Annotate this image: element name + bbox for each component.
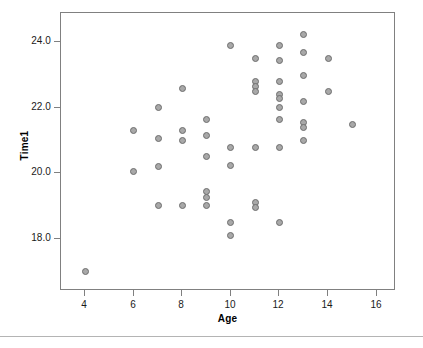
data-point: [179, 137, 186, 144]
data-point: [203, 202, 210, 209]
data-point: [276, 104, 283, 111]
x-axis-tick-label: 16: [356, 299, 396, 310]
data-point: [130, 127, 137, 134]
data-point: [300, 49, 307, 56]
x-axis-tick-label: 10: [210, 299, 250, 310]
data-point: [252, 88, 259, 95]
plot-area: [60, 12, 395, 290]
x-axis-tick: [133, 290, 134, 296]
y-axis-tick-label: 18.0: [0, 232, 51, 243]
data-point: [300, 72, 307, 79]
data-point: [276, 95, 283, 102]
data-point: [179, 127, 186, 134]
x-axis-tick-label: 12: [258, 299, 298, 310]
data-point: [130, 168, 137, 175]
y-axis-tick: [54, 238, 60, 239]
data-point: [155, 135, 162, 142]
data-point: [252, 144, 259, 151]
data-point: [300, 31, 307, 38]
data-point: [227, 232, 234, 239]
y-axis-tick: [54, 172, 60, 173]
data-point: [203, 153, 210, 160]
x-axis-tick: [181, 290, 182, 296]
data-point: [203, 132, 210, 139]
data-points-layer: [61, 13, 394, 289]
data-point: [155, 104, 162, 111]
x-axis-title: Age: [60, 313, 395, 324]
scatter-plot-figure: Time1 Age 18.020.022.024.046810121416: [0, 0, 423, 348]
data-point: [300, 137, 307, 144]
data-point: [203, 116, 210, 123]
data-point: [276, 57, 283, 64]
x-axis-tick: [278, 290, 279, 296]
data-point: [252, 55, 259, 62]
data-point: [227, 144, 234, 151]
x-axis-tick-label: 4: [64, 299, 104, 310]
x-axis-tick-label: 14: [307, 299, 347, 310]
x-axis-tick: [230, 290, 231, 296]
data-point: [276, 116, 283, 123]
x-axis-tick: [327, 290, 328, 296]
data-point: [276, 144, 283, 151]
x-axis-tick: [84, 290, 85, 296]
footer-divider: [0, 336, 423, 337]
data-point: [82, 268, 89, 275]
data-point: [276, 78, 283, 85]
y-axis-tick-label: 20.0: [0, 166, 51, 177]
data-point: [325, 88, 332, 95]
data-point: [276, 42, 283, 49]
data-point: [300, 98, 307, 105]
data-point: [252, 204, 259, 211]
data-point: [203, 194, 210, 201]
y-axis-tick: [54, 41, 60, 42]
y-axis-tick-label: 22.0: [0, 101, 51, 112]
data-point: [179, 85, 186, 92]
x-axis-tick: [376, 290, 377, 296]
data-point: [276, 219, 283, 226]
y-axis-tick: [54, 107, 60, 108]
data-point: [300, 124, 307, 131]
data-point: [349, 121, 356, 128]
data-point: [227, 162, 234, 169]
data-point: [227, 42, 234, 49]
x-axis-tick-label: 6: [113, 299, 153, 310]
data-point: [227, 219, 234, 226]
data-point: [155, 163, 162, 170]
data-point: [179, 202, 186, 209]
data-point: [325, 55, 332, 62]
data-point: [155, 202, 162, 209]
x-axis-tick-label: 8: [161, 299, 201, 310]
y-axis-tick-label: 24.0: [0, 35, 51, 46]
